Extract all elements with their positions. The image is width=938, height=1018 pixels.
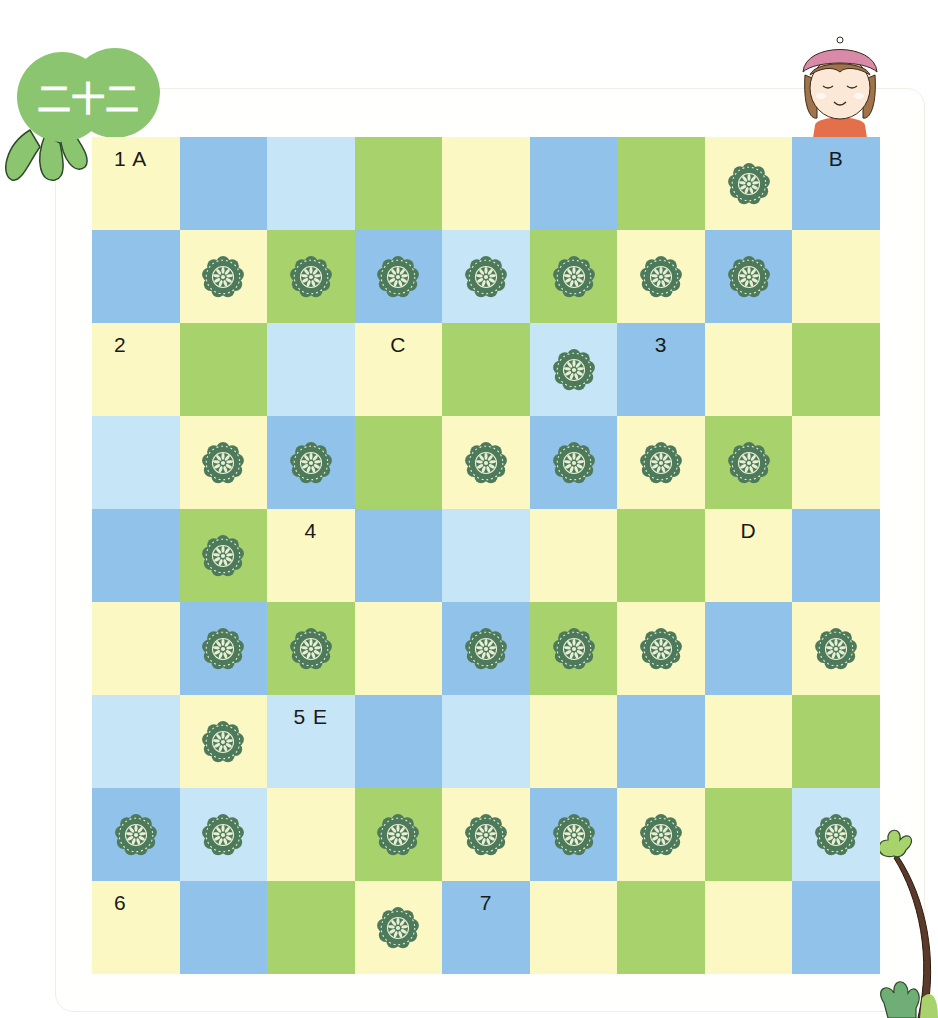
board-cell-r7c5[interactable]: [530, 788, 618, 881]
board-cell-r7c8[interactable]: [792, 788, 880, 881]
board-cell-r7c4[interactable]: [442, 788, 530, 881]
board-cell-r0c5[interactable]: [530, 137, 618, 230]
board-cell-r5c2[interactable]: [267, 602, 355, 695]
board-cell-r1c7[interactable]: [705, 230, 793, 323]
board-cell-r5c7[interactable]: [705, 602, 793, 695]
flower-icon: [200, 440, 246, 486]
board-cell-r1c6[interactable]: [617, 230, 705, 323]
flower-icon: [551, 626, 597, 672]
board-cell-r0c8[interactable]: B: [792, 137, 880, 230]
board-cell-r2c3[interactable]: C: [355, 323, 443, 416]
board-cell-r2c2[interactable]: [267, 323, 355, 416]
board-cell-r0c7[interactable]: [705, 137, 793, 230]
board-cell-r5c5[interactable]: [530, 602, 618, 695]
board-cell-r3c6[interactable]: [617, 416, 705, 509]
board-cell-r3c5[interactable]: [530, 416, 618, 509]
board-cell-r4c0[interactable]: [92, 509, 180, 602]
flower-icon: [638, 626, 684, 672]
flower-icon: [463, 812, 509, 858]
board-cell-r8c5[interactable]: [530, 881, 618, 974]
flower-icon: [638, 812, 684, 858]
board-cell-r4c1[interactable]: [180, 509, 268, 602]
board-cell-r0c3[interactable]: [355, 137, 443, 230]
board-cell-r6c7[interactable]: [705, 695, 793, 788]
board-cell-r7c7[interactable]: [705, 788, 793, 881]
board-cell-r1c8[interactable]: [792, 230, 880, 323]
board-cell-r6c6[interactable]: [617, 695, 705, 788]
board-cell-r8c4[interactable]: 7: [442, 881, 530, 974]
board-cell-r5c4[interactable]: [442, 602, 530, 695]
board-cell-r1c5[interactable]: [530, 230, 618, 323]
board-cell-r2c0[interactable]: 2: [92, 323, 180, 416]
board-cell-r5c8[interactable]: [792, 602, 880, 695]
board-cell-r8c2[interactable]: [267, 881, 355, 974]
board-cell-r2c7[interactable]: [705, 323, 793, 416]
board-cell-r0c6[interactable]: [617, 137, 705, 230]
board-cell-r8c3[interactable]: [355, 881, 443, 974]
board-cell-r2c1[interactable]: [180, 323, 268, 416]
board-cell-r3c3[interactable]: [355, 416, 443, 509]
board-cell-r6c4[interactable]: [442, 695, 530, 788]
board-cell-r7c6[interactable]: [617, 788, 705, 881]
board-cell-r6c8[interactable]: [792, 695, 880, 788]
flower-icon: [638, 254, 684, 300]
cell-label: D: [705, 519, 793, 543]
board-cell-r5c3[interactable]: [355, 602, 443, 695]
board-cell-r1c1[interactable]: [180, 230, 268, 323]
board-cell-r7c1[interactable]: [180, 788, 268, 881]
board-cell-r3c1[interactable]: [180, 416, 268, 509]
board-cell-r0c4[interactable]: [442, 137, 530, 230]
board-cell-r5c1[interactable]: [180, 602, 268, 695]
board-cell-r3c4[interactable]: [442, 416, 530, 509]
board-cell-r4c7[interactable]: D: [705, 509, 793, 602]
board-cell-r0c1[interactable]: [180, 137, 268, 230]
flower-icon: [375, 254, 421, 300]
board-cell-r4c2[interactable]: 4: [267, 509, 355, 602]
board-cell-r3c7[interactable]: [705, 416, 793, 509]
cell-label: 6: [114, 891, 180, 915]
board-cell-r4c3[interactable]: [355, 509, 443, 602]
board-cell-r5c6[interactable]: [617, 602, 705, 695]
board-cell-r1c3[interactable]: [355, 230, 443, 323]
board-cell-r3c8[interactable]: [792, 416, 880, 509]
board-cell-r6c3[interactable]: [355, 695, 443, 788]
board-cell-r6c2[interactable]: 5 E: [267, 695, 355, 788]
board-cell-r7c0[interactable]: [92, 788, 180, 881]
cell-label: 2: [114, 333, 180, 357]
board-cell-r5c0[interactable]: [92, 602, 180, 695]
board-cell-r1c2[interactable]: [267, 230, 355, 323]
flower-icon: [200, 626, 246, 672]
board-cell-r8c0[interactable]: 6: [92, 881, 180, 974]
board-cell-r2c4[interactable]: [442, 323, 530, 416]
flower-icon: [463, 440, 509, 486]
board-cell-r8c6[interactable]: [617, 881, 705, 974]
flower-icon: [288, 254, 334, 300]
board-cell-r4c6[interactable]: [617, 509, 705, 602]
board-cell-r2c5[interactable]: [530, 323, 618, 416]
flower-icon: [200, 719, 246, 765]
board-cell-r7c3[interactable]: [355, 788, 443, 881]
board-cell-r8c8[interactable]: [792, 881, 880, 974]
flower-icon: [813, 626, 859, 672]
flower-icon: [200, 812, 246, 858]
board-cell-r0c0[interactable]: 1 A: [92, 137, 180, 230]
game-board: 1 A B: [92, 137, 880, 974]
board-cell-r2c8[interactable]: [792, 323, 880, 416]
board-cell-r3c0[interactable]: [92, 416, 180, 509]
board-cell-r7c2[interactable]: [267, 788, 355, 881]
cell-label: 5 E: [267, 705, 355, 729]
board-cell-r4c8[interactable]: [792, 509, 880, 602]
board-cell-r1c0[interactable]: [92, 230, 180, 323]
board-cell-r8c7[interactable]: [705, 881, 793, 974]
board-cell-r8c1[interactable]: [180, 881, 268, 974]
board-cell-r3c2[interactable]: [267, 416, 355, 509]
board-cell-r6c0[interactable]: [92, 695, 180, 788]
board-cell-r2c6[interactable]: 3: [617, 323, 705, 416]
board-cell-r6c1[interactable]: [180, 695, 268, 788]
board-cell-r4c4[interactable]: [442, 509, 530, 602]
board-cell-r6c5[interactable]: [530, 695, 618, 788]
board-cell-r4c5[interactable]: [530, 509, 618, 602]
board-cell-r0c2[interactable]: [267, 137, 355, 230]
board-cell-r1c4[interactable]: [442, 230, 530, 323]
flower-icon: [726, 440, 772, 486]
